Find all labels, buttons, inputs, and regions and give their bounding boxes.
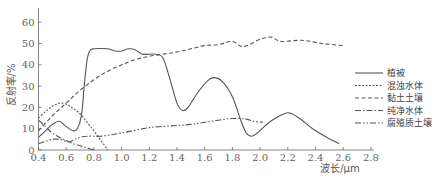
legend-label: 黏土土壤 xyxy=(387,92,423,103)
legend-label: 混浊水体 xyxy=(387,80,423,91)
x-axis: 0.40.60.81.01.21.41.61.82.02.22.42.62.8 xyxy=(31,147,379,163)
x-tick-label: 0.6 xyxy=(58,152,74,163)
x-axis-label: 波长/μm xyxy=(320,162,359,174)
y-tick-label: 30 xyxy=(22,81,35,92)
legend-label: 腐殖质土壤 xyxy=(387,117,432,128)
x-tick-label: 2.4 xyxy=(308,152,324,163)
x-tick-label: 1.4 xyxy=(169,152,185,163)
legend-label: 纯净水体 xyxy=(387,105,423,116)
x-tick-label: 2.0 xyxy=(252,152,268,163)
y-axis-label: 反射率/% xyxy=(5,64,17,107)
reflectance-chart: 0102030405060 0.40.60.81.01.21.41.61.82.… xyxy=(0,0,440,188)
x-tick-label: 0.4 xyxy=(31,152,47,163)
y-tick-label: 20 xyxy=(22,102,35,113)
x-tick-label: 1.6 xyxy=(197,152,213,163)
y-axis: 0102030405060 xyxy=(22,8,42,156)
x-tick-label: 2.8 xyxy=(363,152,379,163)
x-tick-label: 1.2 xyxy=(141,152,157,163)
series-line xyxy=(39,120,94,150)
y-tick-label: 40 xyxy=(22,59,35,70)
y-tick-label: 10 xyxy=(22,123,35,134)
x-tick-label: 2.6 xyxy=(335,152,351,163)
series-line xyxy=(39,49,340,144)
x-tick-label: 0.8 xyxy=(86,152,102,163)
series-line xyxy=(39,103,108,150)
x-tick-label: 1.0 xyxy=(114,152,130,163)
x-tick-label: 1.8 xyxy=(224,152,240,163)
legend: 植被混浊水体黏土土壤纯净水体腐殖质土壤 xyxy=(355,67,432,128)
y-tick-label: 60 xyxy=(22,17,35,28)
legend-label: 植被 xyxy=(387,67,405,78)
series-lines xyxy=(39,37,344,150)
x-tick-label: 2.2 xyxy=(280,152,296,163)
y-tick-label: 50 xyxy=(22,38,35,49)
